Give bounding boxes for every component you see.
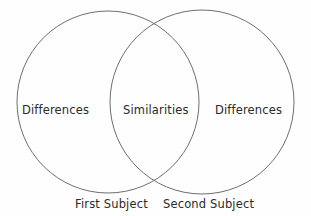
region-label-overlap-similarities: Similarities	[123, 105, 189, 117]
venn-circle-second-subject	[110, 10, 294, 194]
venn-circle-first-subject	[17, 11, 199, 193]
subject-label-second: Second Subject	[163, 199, 254, 211]
venn-diagram: Differences Similarities Differences Fir…	[0, 0, 311, 216]
region-label-right-differences: Differences	[215, 105, 282, 117]
region-label-left-differences: Differences	[22, 105, 89, 117]
subject-label-first: First Subject	[75, 199, 148, 211]
